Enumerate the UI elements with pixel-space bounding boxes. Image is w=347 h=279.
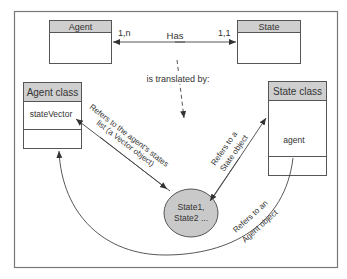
translation-label: is translated by: <box>146 74 209 84</box>
diagram-canvas: Agent State Has 1,n 1,1 is translated by… <box>0 0 347 279</box>
cardinality-right: 1,1 <box>218 28 231 38</box>
er-relationship-has: Has 1,n 1,1 <box>113 28 236 42</box>
class-agent-title: Agent class <box>27 87 79 98</box>
class-agent-attribute: stateVector <box>30 109 73 119</box>
class-state-title: State class <box>273 86 322 97</box>
relationship-label: Has <box>167 30 184 41</box>
er-entity-state-title: State <box>258 22 279 32</box>
er-entity-agent-title: Agent <box>69 22 93 32</box>
state-reference-arrow: Refers to a State object <box>209 118 266 201</box>
class-box-state: State class agent <box>269 82 327 176</box>
translation-arrow <box>177 60 184 118</box>
instances-ellipse: State1, State2 ... <box>164 189 218 237</box>
class-box-agent: Agent class stateVector <box>24 83 82 149</box>
vector-ref-label-line1: Refers to the agent's states <box>88 102 171 168</box>
vector-reference-arrow: Refers to the agent's states list (a Vec… <box>76 102 170 191</box>
instances-line1: State1, <box>178 202 205 212</box>
er-entity-agent: Agent <box>50 21 112 64</box>
class-state-attribute: agent <box>283 135 305 145</box>
instances-line2: State2 ... <box>174 213 208 223</box>
cardinality-left: 1,n <box>118 28 131 38</box>
er-entity-state: State <box>238 21 301 64</box>
